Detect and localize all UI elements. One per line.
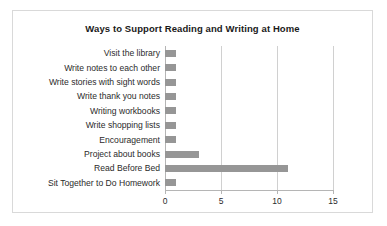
chart-title: Ways to Support Reading and Writing at H… bbox=[13, 23, 372, 34]
bar bbox=[165, 50, 176, 57]
x-tick-15 bbox=[333, 190, 334, 194]
category-label: Project about books bbox=[13, 149, 165, 159]
bar bbox=[165, 179, 176, 186]
x-tick-0 bbox=[165, 190, 166, 194]
x-tick-label-0: 0 bbox=[163, 196, 168, 206]
chart-container: Ways to Support Reading and Writing at H… bbox=[12, 10, 373, 213]
category-label: Write notes to each other bbox=[13, 63, 165, 73]
category-label: Sit Together to Do Homework bbox=[13, 178, 165, 188]
category-label: Write stories with sight words bbox=[13, 77, 165, 87]
x-axis-line bbox=[165, 190, 334, 191]
bar bbox=[165, 151, 199, 158]
category-label: Visit the library bbox=[13, 48, 165, 58]
category-axis-labels: Visit the libraryWrite notes to each oth… bbox=[13, 46, 165, 190]
category-label: Write thank you notes bbox=[13, 91, 165, 101]
bar bbox=[165, 107, 176, 114]
bar bbox=[165, 64, 176, 71]
bar bbox=[165, 136, 176, 143]
category-label: Writing workbooks bbox=[13, 106, 165, 116]
x-tick-label-15: 15 bbox=[328, 196, 337, 206]
category-label: Encouragement bbox=[13, 135, 165, 145]
gridline-15 bbox=[333, 46, 334, 190]
bar bbox=[165, 122, 176, 129]
category-label: Read Before Bed bbox=[13, 163, 165, 173]
x-tick-5 bbox=[221, 190, 222, 194]
category-label: Write shopping lists bbox=[13, 120, 165, 130]
bar bbox=[165, 79, 176, 86]
bar bbox=[165, 165, 288, 172]
x-tick-10 bbox=[277, 190, 278, 194]
plot-area bbox=[165, 46, 333, 190]
x-tick-label-10: 10 bbox=[272, 196, 281, 206]
x-tick-label-5: 5 bbox=[219, 196, 224, 206]
bar bbox=[165, 93, 176, 100]
